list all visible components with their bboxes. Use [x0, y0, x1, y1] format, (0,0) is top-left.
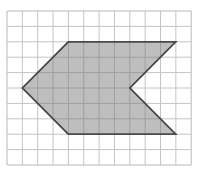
grid-diagram — [0, 0, 209, 173]
